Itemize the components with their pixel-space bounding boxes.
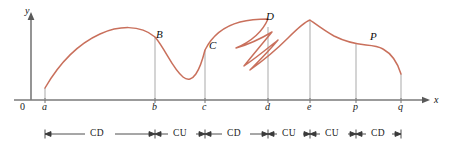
y-axis-label: y <box>25 6 29 16</box>
tick-label-q: q <box>398 102 403 112</box>
tick-label-p: p <box>353 102 358 112</box>
point-label-P: P <box>370 31 377 42</box>
tick-label-e: e <box>307 102 311 112</box>
concavity-label-de: CU <box>280 129 298 139</box>
tick-label-d: d <box>265 102 270 112</box>
point-label-C: C <box>209 40 216 51</box>
gridlines <box>45 20 401 100</box>
x-axis-arrow <box>422 97 430 103</box>
concavity-label-pq: CD <box>369 129 387 139</box>
concavity-label-cd: CD <box>225 129 243 139</box>
curve-path <box>45 19 401 88</box>
concavity-label-ep: CU <box>323 129 341 139</box>
tick-label-c: c <box>202 102 206 112</box>
tick-label-b: b <box>152 102 157 112</box>
concavity-label-bc: CU <box>171 129 189 139</box>
x-axis-label: x <box>434 95 438 105</box>
tick-label-a: a <box>42 102 47 112</box>
point-label-B: B <box>156 29 163 40</box>
concavity-label-ab: CD <box>88 129 106 139</box>
origin-label: 0 <box>20 102 25 112</box>
point-label-D: D <box>266 11 274 22</box>
